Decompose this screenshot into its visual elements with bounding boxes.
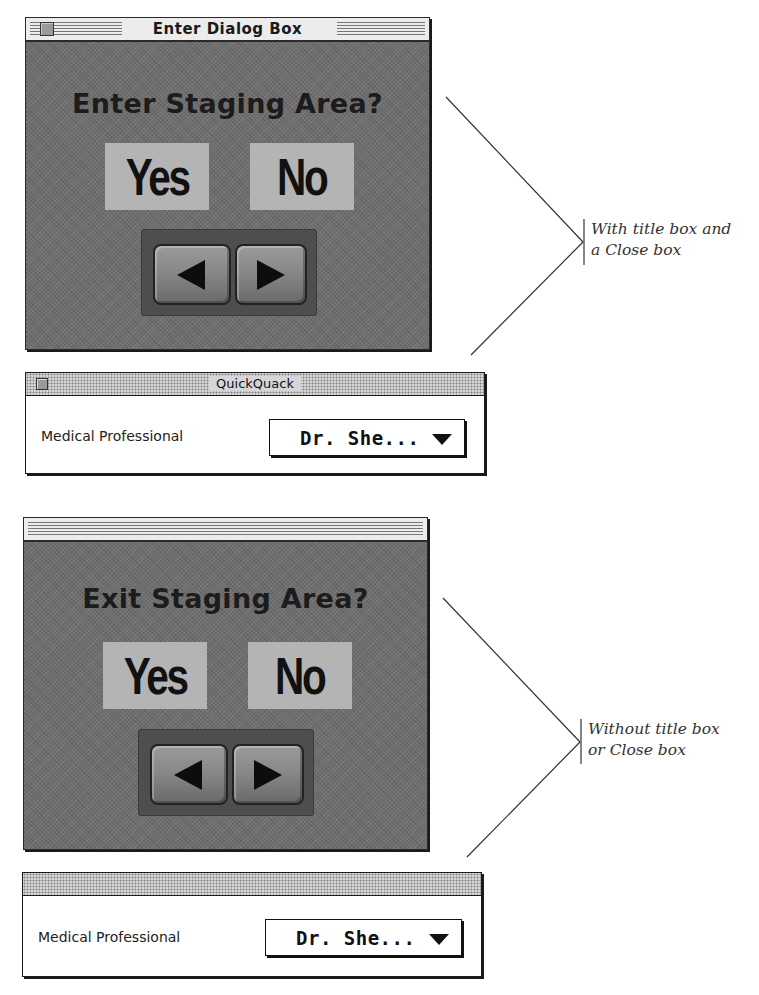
- title-bar[interactable]: Enter Dialog Box: [26, 18, 429, 42]
- next-button[interactable]: [232, 744, 304, 805]
- dialog-question: Enter Staging Area?: [26, 88, 429, 119]
- next-button[interactable]: [235, 244, 307, 305]
- exit-dialog-window: Exit Staging Area? Yes No: [23, 517, 428, 850]
- title-bar[interactable]: [23, 873, 481, 896]
- yes-button[interactable]: Yes: [105, 143, 209, 210]
- left-triangle-icon: [174, 760, 202, 790]
- callout-line-1: Without title box: [588, 719, 720, 740]
- popup-value: Dr. She...: [300, 427, 419, 449]
- quickquack-window: QuickQuack Medical Professional Dr. She.…: [25, 372, 485, 474]
- medical-professional-popup[interactable]: Dr. She...: [265, 919, 462, 956]
- previous-button[interactable]: [150, 744, 228, 805]
- window-title: QuickQuack: [26, 376, 484, 391]
- popup-value: Dr. She...: [296, 927, 415, 949]
- left-triangle-icon: [177, 260, 205, 290]
- triangle-down-icon: [432, 434, 452, 445]
- yes-button[interactable]: Yes: [103, 642, 207, 709]
- title-stripes: [28, 522, 423, 536]
- medical-professional-label: Medical Professional: [41, 428, 183, 444]
- callout-line-2: a Close box: [591, 240, 731, 261]
- callout-line-2: or Close box: [588, 740, 720, 761]
- right-triangle-icon: [257, 260, 285, 290]
- right-triangle-icon: [254, 760, 282, 790]
- previous-button[interactable]: [153, 244, 231, 305]
- no-button[interactable]: No: [250, 143, 354, 210]
- window-title: Enter Dialog Box: [26, 20, 429, 38]
- nav-button-group: [138, 729, 314, 816]
- nav-button-group: [141, 229, 317, 316]
- enter-dialog-window: Enter Dialog Box Enter Staging Area? Yes…: [25, 17, 430, 350]
- no-button[interactable]: No: [248, 642, 352, 709]
- callout-with-title: With title box and a Close box: [591, 219, 731, 261]
- palette-window-untitled: Medical Professional Dr. She...: [22, 872, 482, 977]
- title-bar[interactable]: QuickQuack: [26, 373, 484, 396]
- triangle-down-icon: [429, 934, 449, 945]
- callout-without-title: Without title box or Close box: [588, 719, 720, 761]
- callout-line-1: With title box and: [591, 219, 731, 240]
- medical-professional-popup[interactable]: Dr. She...: [269, 419, 465, 456]
- medical-professional-label: Medical Professional: [38, 929, 180, 945]
- title-bar[interactable]: [24, 518, 427, 542]
- dialog-question: Exit Staging Area?: [24, 583, 427, 614]
